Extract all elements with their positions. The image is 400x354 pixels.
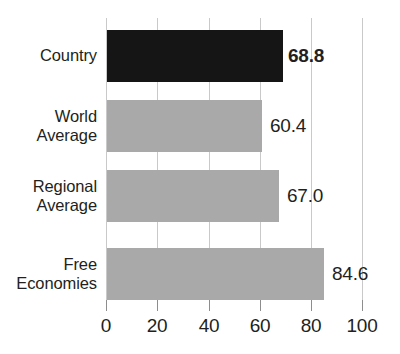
x-axis: 0 20 40 60 80 100	[0, 0, 400, 354]
x-tick-20	[157, 300, 158, 311]
x-tick-label-100: 100	[332, 314, 392, 337]
x-tick-0	[106, 300, 107, 311]
x-tick-label-20: 20	[127, 314, 187, 337]
x-tick-40	[209, 300, 210, 311]
bar-chart-plot: Country 68.8 World Average 60.4 Regional…	[0, 0, 400, 354]
x-tick-80	[311, 300, 312, 311]
x-tick-60	[260, 300, 261, 311]
x-tick-100	[362, 300, 363, 311]
